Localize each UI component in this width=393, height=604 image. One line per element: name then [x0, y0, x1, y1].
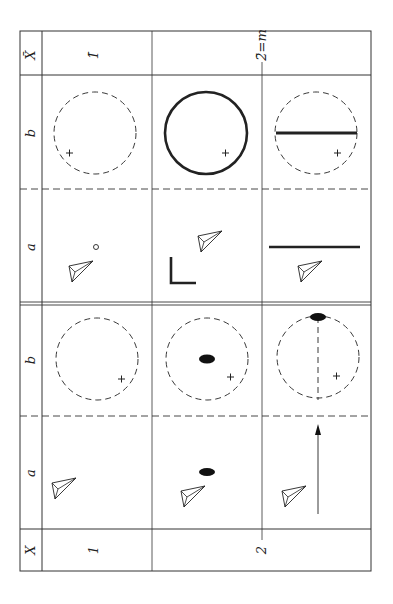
twofold-axis-icon — [310, 313, 326, 321]
symmetry-table-diagram: X̄ 1̄ 2̄=m b a b a X 1 2 — [0, 0, 393, 604]
footer-2: 2 — [254, 546, 269, 555]
footer-x: X — [23, 545, 38, 556]
upper-b-row — [54, 92, 357, 174]
stereogram-circle — [56, 318, 138, 400]
lower-b-row — [56, 313, 359, 400]
cross-icon — [118, 376, 125, 383]
cross-icon — [333, 373, 340, 380]
row-label-upper-b: b — [23, 129, 38, 137]
cross-icon — [227, 374, 234, 381]
cross-icon — [222, 150, 229, 157]
header-2-bar-m: 2̄=m — [254, 29, 269, 62]
header-1-bar: 1̄ — [86, 51, 101, 59]
cross-icon — [334, 150, 341, 157]
inversion-center-icon — [94, 245, 99, 250]
twofold-axis-icon — [199, 355, 215, 364]
stereogram-circle — [54, 92, 136, 174]
upper-a-row — [69, 231, 360, 283]
footer-1: 1 — [86, 546, 101, 554]
row-label-lower-b: b — [23, 356, 38, 364]
header-row: X̄ 1̄ 2̄=m — [23, 29, 269, 62]
lower-a-row — [52, 424, 321, 514]
mirror-circle — [165, 92, 247, 174]
row-label-upper-a: a — [23, 243, 38, 251]
header-x-bar: X̄ — [23, 50, 38, 61]
mirror-l-shape — [171, 257, 196, 283]
cross-icon — [66, 150, 73, 157]
row-label-lower-a: a — [23, 469, 38, 477]
twofold-axis-icon — [199, 468, 215, 476]
arrow-head-icon — [315, 424, 321, 435]
